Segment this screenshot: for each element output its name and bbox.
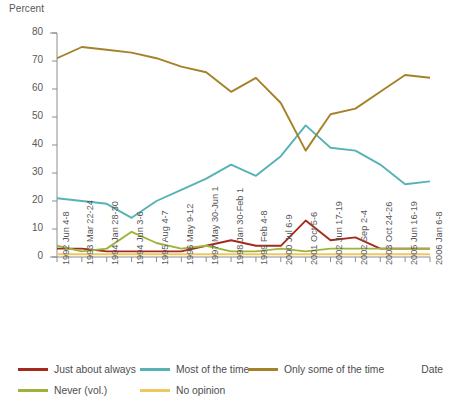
x-tick-label: 2002 Sep 2-4 bbox=[359, 210, 369, 265]
legend-item[interactable]: Only some of the time bbox=[248, 360, 384, 379]
y-tick-label: 0 bbox=[17, 250, 43, 261]
x-tick-label: 1999 Feb 4-8 bbox=[259, 210, 269, 265]
y-tick-label: 70 bbox=[17, 54, 43, 65]
y-axis-title: Percent bbox=[9, 3, 44, 14]
x-tick-label: 1994 Jun 3-6 bbox=[135, 211, 145, 265]
x-tick-label: 1992 Jun 4-8 bbox=[61, 211, 71, 265]
legend-label: Never (vol.) bbox=[54, 385, 107, 396]
x-tick-label: 2006 Jan 6-8 bbox=[434, 211, 444, 265]
y-tick-label: 20 bbox=[17, 194, 43, 205]
x-tick-label: 2002 Jun 17-19 bbox=[334, 201, 344, 265]
legend-color-swatch bbox=[18, 368, 48, 370]
legend-item[interactable]: Never (vol.) bbox=[18, 381, 107, 400]
x-tick-label: 2001 Oct 5-6 bbox=[309, 212, 319, 265]
x-tick-label: 2005 Jun 16-19 bbox=[409, 201, 419, 265]
x-tick-label: 1996 May 9-12 bbox=[185, 204, 195, 265]
series-line bbox=[57, 47, 430, 151]
legend-label: No opinion bbox=[176, 385, 225, 396]
legend-color-swatch bbox=[140, 368, 170, 370]
legend-row: Never (vol.)No opinion bbox=[0, 381, 455, 400]
legend-label: Just about always bbox=[54, 364, 136, 375]
legend-label: Only some of the time bbox=[284, 364, 384, 375]
chart-container: Percent 01020304050607080 1992 Jun 4-819… bbox=[0, 0, 455, 404]
x-tick-label: 2000 Jul 6-9 bbox=[284, 214, 294, 265]
y-tick-label: 50 bbox=[17, 110, 43, 121]
x-axis-title: Date bbox=[421, 360, 443, 379]
legend-label: Most of the time bbox=[176, 364, 249, 375]
y-tick-label: 10 bbox=[17, 222, 43, 233]
chart-legend: Just about alwaysMost of the timeOnly so… bbox=[0, 360, 455, 404]
x-tick-label: 1997 May 30-Jun 1 bbox=[210, 186, 220, 265]
legend-item[interactable]: No opinion bbox=[140, 381, 225, 400]
x-tick-label: 1998 Jan 30-Feb 1 bbox=[235, 188, 245, 265]
y-tick-label: 60 bbox=[17, 82, 43, 93]
legend-color-swatch bbox=[18, 389, 48, 391]
legend-item[interactable]: Just about always bbox=[18, 360, 136, 379]
legend-color-swatch bbox=[248, 368, 278, 370]
x-tick-label: 1993 Mar 22-24 bbox=[85, 200, 95, 265]
y-tick-label: 40 bbox=[17, 138, 43, 149]
y-tick-label: 80 bbox=[17, 26, 43, 37]
x-tick-label: 2003 Oct 24-26 bbox=[384, 202, 394, 265]
x-tick-label: 1995 Aug 4-7 bbox=[160, 210, 170, 265]
y-tick-label: 30 bbox=[17, 166, 43, 177]
legend-row: Just about alwaysMost of the timeOnly so… bbox=[0, 360, 455, 379]
legend-color-swatch bbox=[140, 389, 170, 391]
x-tick-label: 1994 Jan 28-30 bbox=[110, 201, 120, 265]
legend-item[interactable]: Most of the time bbox=[140, 360, 249, 379]
